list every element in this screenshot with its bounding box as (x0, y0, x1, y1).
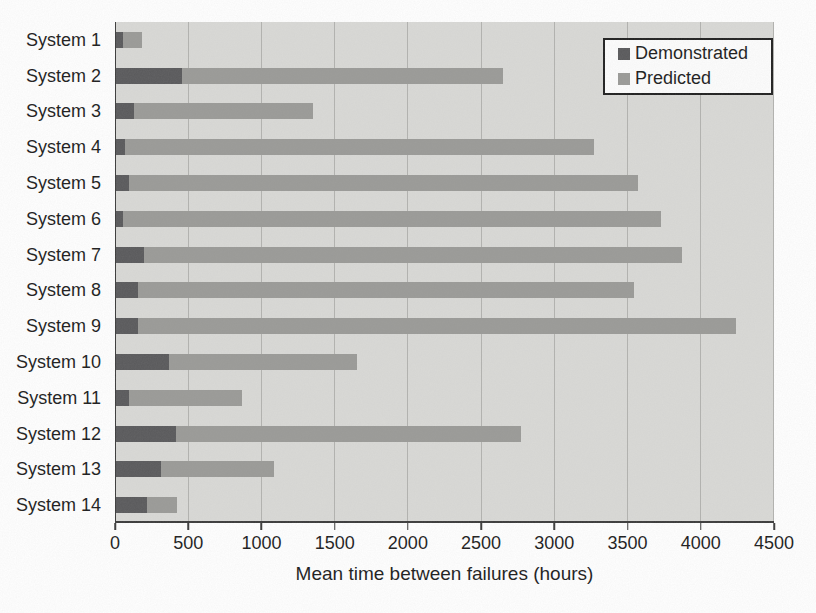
x-tick-label: 2500 (461, 533, 501, 554)
bar-row (116, 201, 774, 237)
bar-predicted (116, 426, 521, 442)
x-tick (407, 523, 409, 530)
category-label: System 12 (0, 425, 101, 443)
x-tick-label: 0 (110, 533, 120, 554)
category-label: System 4 (0, 138, 101, 156)
legend: Demonstrated Predicted (603, 38, 773, 95)
legend-item-demonstrated: Demonstrated (618, 43, 771, 65)
x-tick (114, 523, 116, 530)
bar-demonstrated (116, 103, 134, 119)
x-tick (261, 523, 263, 530)
bar-row (116, 416, 774, 452)
category-label: System 13 (0, 460, 101, 478)
x-tick-label: 500 (173, 533, 203, 554)
bar-predicted (116, 247, 682, 263)
category-label: System 6 (0, 210, 101, 228)
bar-predicted (116, 282, 634, 298)
bar-predicted (116, 211, 661, 227)
demonstrated-swatch-icon (618, 48, 630, 60)
x-tick (334, 523, 336, 530)
x-tick (554, 523, 556, 530)
x-axis-title: Mean time between failures (hours) (115, 563, 774, 585)
legend-item-predicted: Predicted (618, 68, 771, 90)
bar-predicted (116, 139, 594, 155)
bar-row (116, 94, 774, 130)
bar-predicted (116, 318, 736, 334)
bar-predicted (116, 175, 638, 191)
bar-demonstrated (116, 461, 161, 477)
bar-predicted (116, 390, 242, 406)
bar-row (116, 487, 774, 523)
bar-demonstrated (116, 175, 129, 191)
bar-demonstrated (116, 68, 182, 84)
bar-row (116, 129, 774, 165)
x-tick-label: 3500 (608, 533, 648, 554)
x-tick-label: 4500 (754, 533, 794, 554)
predicted-swatch-icon (618, 73, 630, 85)
x-tick (773, 523, 775, 530)
plot-area (115, 22, 774, 523)
bar-row (116, 273, 774, 309)
bar-demonstrated (116, 211, 123, 227)
bar-demonstrated (116, 139, 125, 155)
legend-label-demonstrated: Demonstrated (635, 43, 748, 65)
x-axis: 050010001500200025003000350040004500 (115, 523, 774, 565)
x-tick (187, 523, 189, 530)
bar-demonstrated (116, 318, 138, 334)
category-label: System 8 (0, 281, 101, 299)
category-label: System 5 (0, 174, 101, 192)
y-axis-labels: System 1System 2System 3System 4System 5… (0, 22, 107, 523)
bar-demonstrated (116, 247, 144, 263)
x-tick-label: 1500 (315, 533, 355, 554)
bar-row (116, 165, 774, 201)
bar-demonstrated (116, 390, 129, 406)
figure: System 1System 2System 3System 4System 5… (0, 0, 816, 613)
bar-row (116, 451, 774, 487)
bar-row (116, 237, 774, 273)
x-tick-label: 2000 (388, 533, 428, 554)
legend-label-predicted: Predicted (635, 68, 711, 90)
x-tick-label: 3000 (534, 533, 574, 554)
x-tick (700, 523, 702, 530)
category-label: System 9 (0, 317, 101, 335)
bar-demonstrated (116, 426, 176, 442)
bar-row (116, 380, 774, 416)
category-label: System 2 (0, 67, 101, 85)
bar-predicted (116, 103, 313, 119)
bar-demonstrated (116, 32, 123, 48)
category-label: System 14 (0, 496, 101, 514)
bar-demonstrated (116, 497, 147, 513)
category-label: System 1 (0, 31, 101, 49)
x-tick (480, 523, 482, 530)
bar-demonstrated (116, 282, 138, 298)
category-label: System 3 (0, 102, 101, 120)
bar-row (116, 308, 774, 344)
x-tick (627, 523, 629, 530)
category-label: System 10 (0, 353, 101, 371)
category-label: System 7 (0, 246, 101, 264)
bar-demonstrated (116, 354, 169, 370)
category-label: System 11 (0, 389, 101, 407)
x-tick-label: 1000 (241, 533, 281, 554)
x-tick-label: 4000 (681, 533, 721, 554)
bar-row (116, 344, 774, 380)
